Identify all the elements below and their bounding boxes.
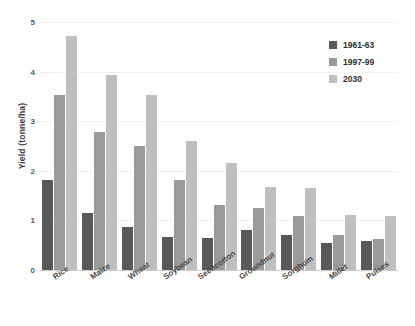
y-axis-title: Yield (tonne/ha): [17, 71, 27, 201]
bar-chart: Yield (tonne/ha) 012345 RiceMaizeWheatSo…: [0, 0, 415, 326]
x-label-cell: Wheat: [120, 272, 160, 324]
legend-swatch-icon: [329, 58, 337, 66]
bar-group: [40, 22, 80, 270]
x-label-cell: Maize: [80, 272, 120, 324]
legend-swatch-icon: [329, 75, 337, 83]
bar-group: [159, 22, 199, 270]
bar: [42, 180, 53, 270]
bar: [134, 146, 145, 270]
bar-group: [279, 22, 319, 270]
legend-label: 2030: [343, 74, 362, 84]
bar: [146, 95, 157, 270]
bar: [281, 235, 292, 270]
x-label-cell: Millet: [318, 272, 358, 324]
x-label-cell: Seedcotton: [199, 272, 239, 324]
bar: [106, 75, 117, 270]
y-tick-label: 3: [31, 117, 35, 126]
legend-swatch-icon: [329, 41, 337, 49]
bar-group: [199, 22, 239, 270]
x-axis-labels: RiceMaizeWheatSoybeanSeedcottonGroundnut…: [40, 272, 398, 324]
y-tick-label: 0: [31, 266, 35, 275]
bar: [162, 237, 173, 270]
x-label-cell: Pulses: [358, 272, 398, 324]
bar: [174, 180, 185, 270]
bar: [345, 215, 356, 270]
bar-group: [120, 22, 160, 270]
x-label-cell: Sorghum: [279, 272, 319, 324]
bar: [122, 227, 133, 270]
x-label-cell: Groundnut: [239, 272, 279, 324]
y-tick-label: 2: [31, 166, 35, 175]
bar: [321, 243, 332, 270]
bar: [94, 132, 105, 270]
bar-group: [239, 22, 279, 270]
y-tick-label: 1: [31, 216, 35, 225]
x-label-cell: Rice: [40, 272, 80, 324]
legend-item[interactable]: 1997-99: [329, 53, 374, 70]
bar: [82, 213, 93, 270]
bar: [66, 36, 77, 270]
legend-item[interactable]: 2030: [329, 70, 374, 87]
legend-label: 1997-99: [343, 57, 374, 67]
y-tick-label: 5: [31, 18, 35, 27]
y-tick-label: 4: [31, 67, 35, 76]
x-label-cell: Soybean: [159, 272, 199, 324]
bar: [54, 95, 65, 270]
chart-legend: 1961-631997-992030: [329, 36, 374, 87]
bar: [186, 141, 197, 270]
bar-group: [80, 22, 120, 270]
legend-item[interactable]: 1961-63: [329, 36, 374, 53]
legend-label: 1961-63: [343, 40, 374, 50]
bar: [361, 241, 372, 270]
